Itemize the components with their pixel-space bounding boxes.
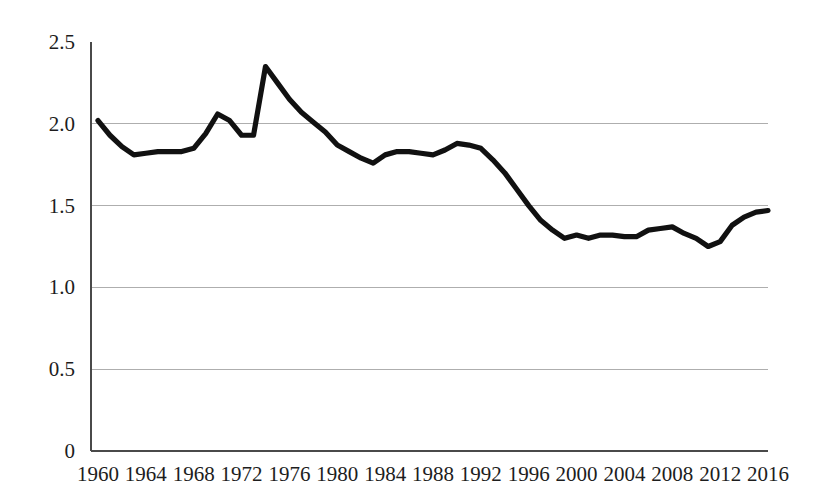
x-axis-tick-labels: 1960196419681972197619801984198819921996…	[77, 462, 789, 486]
y-tick-label: 0	[65, 439, 76, 463]
x-tick-label: 2000	[556, 462, 598, 486]
y-tick-label: 2.0	[49, 112, 75, 136]
x-tick-label: 1980	[316, 462, 358, 486]
x-tick-label: 1960	[77, 462, 119, 486]
y-tick-label: 1.5	[49, 194, 75, 218]
x-tick-label: 2012	[699, 462, 741, 486]
x-tick-label: 1988	[412, 462, 454, 486]
data-series-line	[98, 67, 768, 247]
x-tick-label: 2016	[747, 462, 789, 486]
x-tick-label: 2004	[603, 462, 646, 486]
x-tick-label: 1996	[508, 462, 550, 486]
y-tick-label: 2.5	[49, 30, 75, 54]
y-tick-label: 1.0	[49, 275, 75, 299]
x-tick-label: 1984	[364, 462, 407, 486]
x-tick-label: 1968	[173, 462, 215, 486]
x-tick-label: 1976	[268, 462, 310, 486]
x-tick-label: 1972	[221, 462, 263, 486]
y-tick-label: 0.5	[49, 357, 75, 381]
x-tick-label: 2008	[651, 462, 693, 486]
chart-container: 00.51.01.52.02.5 19601964196819721976198…	[0, 0, 817, 502]
x-tick-label: 1964	[125, 462, 168, 486]
x-tick-label: 1992	[460, 462, 502, 486]
y-axis-tick-labels: 00.51.01.52.02.5	[49, 30, 75, 463]
gridline-group	[91, 124, 768, 369]
line-chart: 00.51.01.52.02.5 19601964196819721976198…	[0, 0, 817, 502]
